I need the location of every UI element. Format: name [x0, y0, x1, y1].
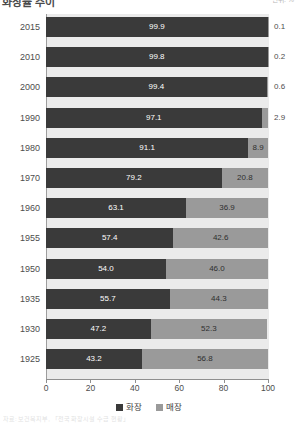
value-label-burial: 36.9 [186, 198, 268, 218]
bar-row: 199097.12.9 [0, 108, 297, 128]
bar-row: 196063.136.9 [0, 198, 297, 218]
year-axis-label: 1935 [0, 289, 40, 309]
value-label-burial: 52.3 [151, 319, 267, 339]
title-strip: 화장률 추이 단위: % [0, 0, 297, 9]
bar-row: 200099.40.6 [0, 77, 297, 97]
value-label-burial: 46.0 [166, 259, 268, 279]
year-axis-label: 1970 [0, 168, 40, 188]
bar-row: 193555.744.3 [0, 289, 297, 309]
bar-track: 99.8 [46, 47, 268, 67]
value-label-cremation: 54.0 [46, 259, 166, 279]
year-axis-label: 1950 [0, 259, 40, 279]
value-label-cremation: 57.4 [46, 228, 173, 248]
value-label-burial: 8.9 [248, 138, 268, 158]
bar-track: 99.4 [46, 77, 268, 97]
value-label-burial-outside: 0.1 [274, 17, 285, 37]
page-title: 화장률 추이 [2, 0, 55, 9]
year-axis-label: 1930 [0, 319, 40, 339]
bar-track: 79.220.8 [46, 168, 268, 188]
value-label-cremation: 99.9 [46, 17, 268, 37]
x-tick-label: 100 [256, 383, 280, 393]
value-label-burial: 44.3 [170, 289, 268, 309]
bar-track: 99.9 [46, 17, 268, 37]
unit-note: 단위: % [272, 0, 294, 4]
bar-track: 43.256.8 [46, 349, 268, 369]
value-label-cremation: 97.1 [46, 108, 262, 128]
bar-segment-burial [262, 108, 268, 128]
bar-track: 57.442.6 [46, 228, 268, 248]
year-axis-label: 2015 [0, 17, 40, 37]
year-axis-label: 1990 [0, 108, 40, 128]
year-axis-label: 1980 [0, 138, 40, 158]
year-axis-label: 2010 [0, 47, 40, 67]
value-label-cremation: 63.1 [46, 198, 186, 218]
bar-row: 197079.220.8 [0, 168, 297, 188]
bar-row: 198091.18.9 [0, 138, 297, 158]
bar-row: 193047.252.3 [0, 319, 297, 339]
x-tick-label: 60 [167, 383, 191, 393]
year-axis-label: 1955 [0, 228, 40, 248]
year-axis-label: 1960 [0, 198, 40, 218]
bar-row: 195054.046.0 [0, 259, 297, 279]
bar-segment-burial [267, 77, 268, 97]
value-label-burial-outside: 0.2 [274, 47, 285, 67]
stacked-bar-chart: 201599.90.1201099.80.2200099.40.6199097.… [0, 9, 297, 423]
value-label-burial: 56.8 [142, 349, 268, 369]
bar-row: 201099.80.2 [0, 47, 297, 67]
value-label-cremation: 99.4 [46, 77, 267, 97]
value-label-burial-outside: 0.6 [274, 77, 285, 97]
legend-item[interactable]: 매장 [156, 400, 182, 412]
year-axis-label: 2000 [0, 77, 40, 97]
legend-swatch-icon [116, 404, 123, 411]
value-label-burial: 20.8 [222, 168, 268, 188]
x-tick-label: 40 [123, 383, 147, 393]
x-tick-label: 20 [78, 383, 102, 393]
x-tick-label: 80 [212, 383, 236, 393]
x-tick-label: 0 [34, 383, 58, 393]
value-label-burial-outside: 2.9 [274, 108, 285, 128]
value-label-cremation: 91.1 [46, 138, 248, 158]
value-label-cremation: 43.2 [46, 349, 142, 369]
legend-item[interactable]: 화장 [116, 400, 142, 412]
year-axis-label: 1925 [0, 349, 40, 369]
value-label-burial: 42.6 [173, 228, 268, 248]
bar-row: 195557.442.6 [0, 228, 297, 248]
bar-track: 54.046.0 [46, 259, 268, 279]
source-footnote: 자료: 보건복지부, 「전국 화장시설 수급 현황」 [3, 414, 293, 423]
chart-legend: 화장매장 [0, 400, 297, 412]
bar-row: 201599.90.1 [0, 17, 297, 37]
x-axis-line [46, 379, 269, 380]
legend-label: 매장 [166, 402, 182, 412]
value-label-cremation: 99.8 [46, 47, 268, 67]
value-label-cremation: 55.7 [46, 289, 170, 309]
bar-row: 192543.256.8 [0, 349, 297, 369]
value-label-cremation: 79.2 [46, 168, 222, 188]
bar-track: 47.252.3 [46, 319, 268, 339]
value-label-cremation: 47.2 [46, 319, 151, 339]
bar-track: 55.744.3 [46, 289, 268, 309]
legend-label: 화장 [126, 402, 142, 412]
legend-swatch-icon [156, 404, 163, 411]
bar-track: 63.136.9 [46, 198, 268, 218]
bar-track: 97.1 [46, 108, 268, 128]
bar-track: 91.18.9 [46, 138, 268, 158]
